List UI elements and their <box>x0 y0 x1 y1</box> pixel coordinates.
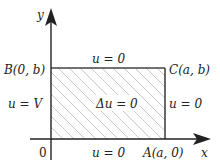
origin-label: 0 <box>39 146 47 160</box>
x-axis-label: x <box>201 146 208 160</box>
dirichlet-rectangle-diagram: y x 0 B(0, b) C(a, b) A(a, 0) u = 0 u = … <box>0 0 220 167</box>
interior-equation-label: Δu = 0 <box>95 97 138 111</box>
boundary-right-label: u = 0 <box>169 97 202 111</box>
boundary-top-label: u = 0 <box>92 52 125 66</box>
boundary-left-label: u = V <box>8 97 43 111</box>
corner-label-b: B(0, b) <box>3 63 45 77</box>
y-axis-label: y <box>36 8 44 22</box>
corner-label-c: C(a, b) <box>169 63 210 77</box>
corner-label-a: A(a, 0) <box>142 146 184 160</box>
boundary-bottom-label: u = 0 <box>92 146 125 160</box>
